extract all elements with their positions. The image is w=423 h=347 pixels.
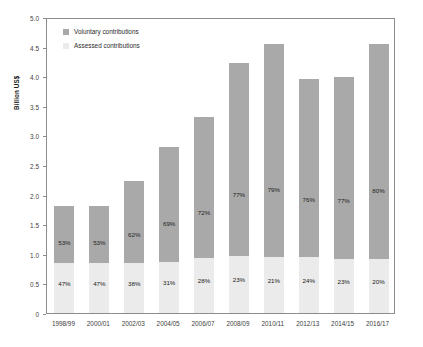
bar-label-assessed: 21%: [264, 277, 284, 284]
bar-segment-assessed[interactable]: [369, 259, 389, 313]
bar-group[interactable]: 47%53%: [54, 17, 74, 313]
bar-label-assessed: 23%: [229, 276, 249, 283]
bar-group[interactable]: 23%77%: [229, 17, 249, 313]
stacked-bar-chart: Billion US$ 00.51.01.52.02.53.03.54.04.5…: [0, 0, 423, 347]
bar-segment-assessed[interactable]: [54, 263, 74, 313]
bar-segment-voluntary[interactable]: [159, 147, 179, 262]
legend-swatch-icon: [63, 29, 69, 35]
bar-label-voluntary: 62%: [124, 231, 144, 238]
bar-label-voluntary: 79%: [264, 186, 284, 193]
bar-segment-assessed[interactable]: [299, 257, 319, 313]
y-tick-label: 1.5: [13, 222, 39, 229]
bar-label-assessed: 47%: [89, 280, 109, 287]
bar-label-assessed: 23%: [334, 278, 354, 285]
bar-label-voluntary: 76%: [299, 196, 319, 203]
bar-label-assessed: 28%: [194, 277, 214, 284]
bar-segment-assessed[interactable]: [124, 263, 144, 313]
legend-label: Voluntary contributions: [74, 28, 139, 36]
bar-segment-voluntary[interactable]: [334, 77, 354, 258]
bar-label-assessed: 31%: [159, 279, 179, 286]
bar-label-assessed: 38%: [124, 280, 144, 287]
x-tick-label: 2016/17: [355, 320, 401, 327]
bar-label-voluntary: 53%: [89, 239, 109, 246]
bar-group[interactable]: 38%62%: [124, 17, 144, 313]
y-tick-label: 5.0: [13, 15, 39, 22]
bar-label-voluntary: 53%: [54, 239, 74, 246]
bar-group[interactable]: 23%77%: [334, 17, 354, 313]
bar-segment-voluntary[interactable]: [54, 206, 74, 263]
bar-segment-assessed[interactable]: [334, 259, 354, 313]
y-tick-label: 4.5: [13, 44, 39, 51]
bar-label-voluntary: 72%: [194, 209, 214, 216]
legend-label: Assessed contributions: [74, 42, 140, 50]
bar-segment-assessed[interactable]: [264, 257, 284, 313]
y-tick-mark: [43, 314, 46, 315]
legend-swatch-icon: [63, 43, 69, 49]
y-tick-label: 0.5: [13, 281, 39, 288]
bar-label-voluntary: 80%: [369, 187, 389, 194]
bar-group[interactable]: 20%80%: [369, 17, 389, 313]
bar-group[interactable]: 24%76%: [299, 17, 319, 313]
bar-segment-voluntary[interactable]: [369, 44, 389, 259]
y-axis-title: Billion US$: [13, 20, 20, 110]
bar-segment-assessed[interactable]: [229, 256, 249, 313]
bar-group[interactable]: 31%69%: [159, 17, 179, 313]
bar-label-voluntary: 77%: [334, 197, 354, 204]
bar-segment-voluntary[interactable]: [229, 63, 249, 256]
bar-segment-voluntary[interactable]: [264, 44, 284, 257]
bar-label-assessed: 24%: [299, 277, 319, 284]
bar-group[interactable]: 28%72%: [194, 17, 214, 313]
bar-segment-assessed[interactable]: [89, 263, 109, 313]
y-tick-label: 3.5: [13, 103, 39, 110]
bar-segment-voluntary[interactable]: [124, 181, 144, 263]
legend-item[interactable]: Assessed contributions: [63, 42, 140, 50]
y-tick-label: 2.0: [13, 192, 39, 199]
bar-segment-voluntary[interactable]: [299, 79, 319, 257]
bar-label-voluntary: 77%: [229, 191, 249, 198]
bar-label-assessed: 47%: [54, 280, 74, 287]
chart-legend: Voluntary contributionsAssessed contribu…: [63, 28, 140, 56]
bar-segment-assessed[interactable]: [159, 262, 179, 314]
plot-area: 47%53%47%53%38%62%31%69%28%72%23%77%21%7…: [46, 18, 395, 314]
bar-label-voluntary: 69%: [159, 220, 179, 227]
bar-segment-voluntary[interactable]: [89, 206, 109, 263]
bar-group[interactable]: 47%53%: [89, 17, 109, 313]
y-tick-label: 2.5: [13, 163, 39, 170]
y-tick-label: 1.0: [13, 251, 39, 258]
y-tick-label: 0: [13, 311, 39, 318]
bar-group[interactable]: 21%79%: [264, 17, 284, 313]
y-tick-label: 3.0: [13, 133, 39, 140]
legend-item[interactable]: Voluntary contributions: [63, 28, 140, 36]
bar-label-assessed: 20%: [369, 278, 389, 285]
bar-segment-assessed[interactable]: [194, 258, 214, 313]
bar-segment-voluntary[interactable]: [194, 117, 214, 258]
y-tick-label: 4.0: [13, 74, 39, 81]
